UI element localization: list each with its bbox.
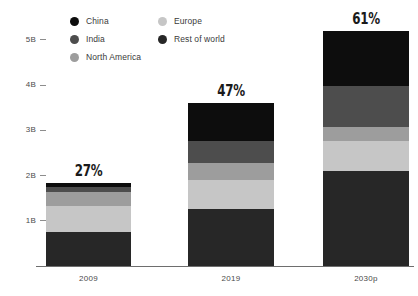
x-axis-category-label: 2009 (46, 274, 131, 283)
bar-segment[interactable] (188, 209, 274, 266)
bar-segment[interactable] (46, 206, 131, 232)
bar-segment[interactable] (46, 187, 131, 192)
bar-segment[interactable] (323, 141, 409, 171)
stacked-bar-chart: ChinaIndiaNorth America EuropeRest of wo… (0, 0, 418, 296)
bar-segment[interactable] (188, 103, 274, 141)
bar-percent-label: 61% (328, 10, 404, 28)
bar-group[interactable]: 47% (188, 103, 274, 266)
bar-segment[interactable] (46, 183, 131, 187)
x-axis-category-label: 2019 (188, 274, 274, 283)
stacked-bar[interactable] (188, 103, 274, 266)
bar-group[interactable]: 27% (46, 183, 131, 266)
bar-segment[interactable] (323, 86, 409, 127)
bar-percent-label: 47% (193, 82, 269, 100)
bar-segment[interactable] (323, 127, 409, 141)
bar-segment[interactable] (188, 163, 274, 180)
stacked-bar[interactable] (323, 31, 409, 266)
bar-segment[interactable] (188, 180, 274, 209)
x-axis-category-label: 2030p (323, 274, 409, 283)
bar-segment[interactable] (188, 141, 274, 163)
bar-segment[interactable] (323, 171, 409, 266)
stacked-bar[interactable] (46, 183, 131, 266)
bar-group[interactable]: 61% (323, 31, 409, 266)
bar-segment[interactable] (323, 31, 409, 86)
bar-segment[interactable] (46, 192, 131, 206)
plot-area: 27%200947%201961%2030p (0, 0, 418, 296)
bar-percent-label: 27% (51, 162, 126, 180)
bar-segment[interactable] (46, 232, 131, 266)
